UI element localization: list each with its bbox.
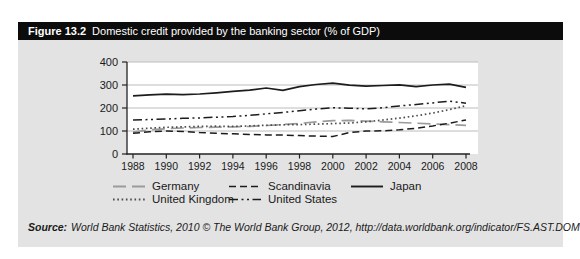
x-tick-label-1994: 1994 — [221, 160, 245, 172]
page: Figure 13.2Domestic credit provided by t… — [0, 0, 580, 259]
legend-label-germany: Germany — [152, 180, 199, 192]
x-tick-label-2000: 2000 — [321, 160, 345, 172]
legend-item-united-states: United States — [229, 193, 351, 205]
legend-swatch-scandinavia-icon — [229, 181, 261, 192]
legend-swatch-germany-icon — [113, 181, 145, 192]
x-tick-label-1992: 1992 — [188, 160, 212, 172]
line-chart: 0100200300400198819901992199419961998200… — [18, 48, 563, 183]
figure-title: Domestic credit provided by the banking … — [92, 25, 380, 37]
source-text: World Bank Statistics, 2010 © The World … — [71, 221, 580, 233]
x-tick-label-1996: 1996 — [255, 160, 279, 172]
figure-header: Figure 13.2Domestic credit provided by t… — [18, 22, 563, 40]
legend-swatch-united-states-icon — [229, 194, 261, 205]
x-tick-label-1998: 1998 — [288, 160, 312, 172]
x-tick-label-2002: 2002 — [354, 160, 378, 172]
x-tick-label-1990: 1990 — [155, 160, 179, 172]
y-tick-label-100: 100 — [100, 125, 118, 137]
legend-swatch-japan-icon — [351, 181, 383, 192]
figure-number: Figure 13.2 — [28, 25, 86, 37]
legend-item-scandinavia: Scandinavia — [229, 180, 351, 192]
y-tick-label-300: 300 — [100, 79, 118, 91]
figure-panel: Figure 13.2Domestic credit provided by t… — [18, 22, 563, 247]
source-label: Source: — [28, 221, 67, 233]
legend-label-scandinavia: Scandinavia — [268, 180, 331, 192]
x-tick-label-2004: 2004 — [388, 160, 412, 172]
y-tick-label-0: 0 — [112, 148, 118, 160]
legend-item-japan: Japan — [351, 180, 421, 192]
legend-spacer — [351, 193, 421, 205]
legend-item-united-kingdom: United Kingdom — [113, 193, 229, 205]
legend-item-germany: Germany — [113, 180, 229, 192]
y-tick-label-400: 400 — [100, 56, 118, 68]
x-tick-label-1988: 1988 — [121, 160, 145, 172]
source-line: Source:World Bank Statistics, 2010 © The… — [28, 221, 558, 233]
x-tick-label-2006: 2006 — [421, 160, 445, 172]
legend-label-japan: Japan — [390, 180, 421, 192]
chart-legend: GermanyScandinaviaJapanUnited KingdomUni… — [113, 180, 421, 205]
legend-label-united-states: United States — [268, 193, 337, 205]
x-tick-label-2008: 2008 — [454, 160, 478, 172]
y-tick-label-200: 200 — [100, 102, 118, 114]
legend-label-united-kingdom: United Kingdom — [152, 193, 234, 205]
legend-swatch-united-kingdom-icon — [113, 194, 145, 205]
